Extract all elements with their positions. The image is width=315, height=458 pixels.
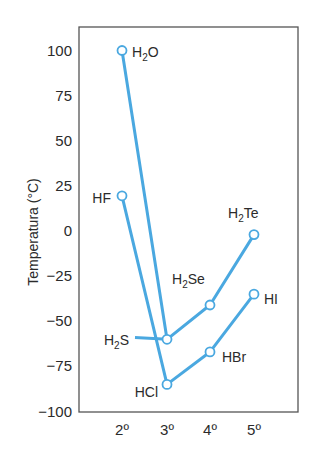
x-tick-label: 5º [247, 421, 261, 438]
data-point-marker [250, 230, 259, 239]
y-tick-label: 50 [55, 132, 72, 149]
boiling-point-chart: 1007550250−25−50−75−100 2º3º4º5º Tempera… [0, 0, 315, 458]
y-tick-label: −75 [47, 357, 72, 374]
data-point-marker [163, 380, 172, 389]
y-axis-label: Temperatura (°C) [25, 178, 41, 286]
point-label: H2O [132, 44, 159, 63]
y-tick-label: 0 [64, 222, 72, 239]
plot-frame [79, 27, 298, 412]
y-tick-label: 75 [55, 87, 72, 104]
data-point-marker [118, 46, 127, 55]
data-point-marker [206, 347, 215, 356]
point-label: HF [92, 190, 111, 206]
y-tick-label: 25 [55, 177, 72, 194]
x-tick-label: 2º [115, 421, 129, 438]
y-tick-label: 100 [47, 42, 72, 59]
series-line [122, 51, 254, 340]
point-label: HBr [222, 349, 246, 365]
data-point-marker [250, 290, 259, 299]
y-tick-label: −25 [47, 267, 72, 284]
y-tick-label: −50 [47, 312, 72, 329]
y-axis-ticks: 1007550250−25−50−75−100 [38, 42, 72, 420]
y-tick-label: −100 [38, 403, 72, 420]
point-labels: H2OH2SH2SeH2TeHFHClHBrHI [92, 44, 278, 400]
data-point-marker [118, 191, 127, 200]
data-point-marker [206, 301, 215, 310]
point-label: H2Se [172, 271, 205, 290]
point-label: H2S [104, 332, 129, 351]
x-tick-label: 4º [203, 421, 217, 438]
point-label: HCl [135, 384, 158, 400]
point-label: HI [264, 291, 278, 307]
x-axis-ticks: 2º3º4º5º [115, 421, 261, 438]
data-point-marker [163, 335, 172, 344]
x-tick-label: 3º [160, 421, 174, 438]
point-label: H2Te [228, 205, 259, 224]
